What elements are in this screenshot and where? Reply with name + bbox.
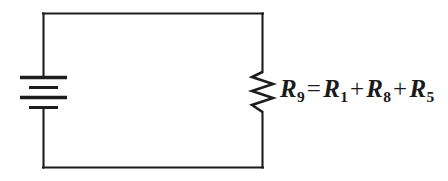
circuit-diagram-figure: R9=R1+R8+R5 xyxy=(0,0,448,181)
battery-icon xyxy=(20,78,67,108)
circuit-schematic xyxy=(0,0,448,181)
resistor-icon xyxy=(252,72,273,112)
